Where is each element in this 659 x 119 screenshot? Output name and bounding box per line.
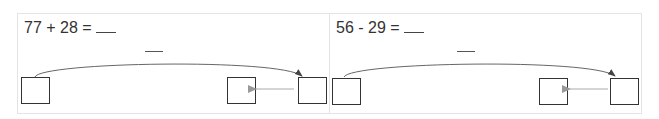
- jump-arc-1: [35, 64, 302, 77]
- jump-arc-2: [344, 64, 615, 77]
- jump-arrows: [0, 0, 659, 119]
